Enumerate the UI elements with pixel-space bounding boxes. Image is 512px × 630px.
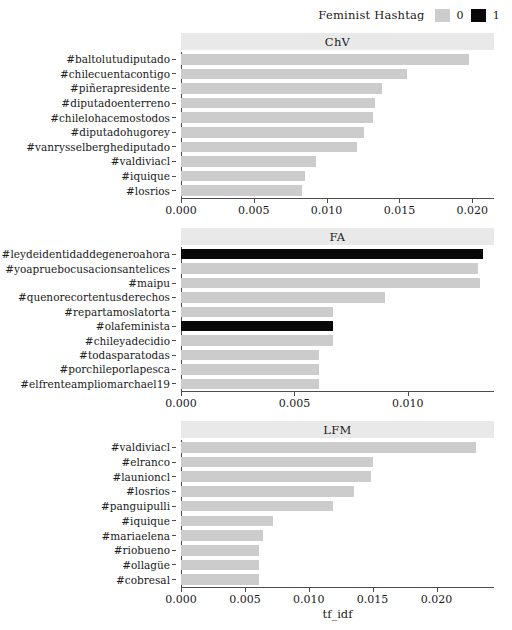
x-tick-mark <box>181 588 182 592</box>
x-tick-label: 0.005 <box>238 204 270 217</box>
y-tick: #porchileporlapesca <box>0 362 176 376</box>
x-tick-mark <box>373 588 374 592</box>
y-tick-mark <box>172 132 176 133</box>
y-tick: #olafeminista <box>0 319 176 333</box>
y-tick: #valdiviacl <box>0 154 176 169</box>
y-tick-label: #yoapruebocusacionsantelices <box>5 263 176 275</box>
bar <box>181 457 373 468</box>
bar-row <box>181 543 494 558</box>
panel-title: FA <box>330 230 346 244</box>
bar-row <box>181 558 494 573</box>
bar <box>181 545 259 556</box>
y-tick-mark <box>172 462 176 463</box>
y-axis-labels: #baltolutudiputado#chilecuentacontigo#pi… <box>0 52 176 198</box>
x-tick-label: 0.010 <box>392 397 424 410</box>
x-axis-line <box>181 198 494 199</box>
x-tick-mark <box>181 199 182 203</box>
bar <box>181 530 263 541</box>
y-tick-label: #launioncl <box>112 471 176 483</box>
y-tick: #riobueno <box>0 543 176 558</box>
bar <box>181 364 319 374</box>
y-tick-label: #olafeminista <box>96 320 176 332</box>
y-tick-label: #valdiviacl <box>111 155 176 167</box>
y-tick-label: #chilecuentacontigo <box>60 68 176 80</box>
x-tick-mark <box>181 392 182 396</box>
bar-row <box>181 514 494 529</box>
bar-row <box>181 110 494 125</box>
y-tick-label: #repartamoslatorta <box>64 306 176 318</box>
bar-rows <box>181 440 494 587</box>
y-axis-labels: #leydeidentidaddegeneroahora#yoapruebocu… <box>0 247 176 391</box>
bar-row <box>181 52 494 67</box>
y-tick-mark <box>172 550 176 551</box>
y-tick-label: #valdiviacl <box>111 441 176 453</box>
bar-row <box>181 261 494 275</box>
x-axis-line <box>181 391 494 392</box>
bar-row <box>181 455 494 470</box>
bar-row <box>181 290 494 304</box>
y-tick: #chilecuentacontigo <box>0 67 176 82</box>
bar-row <box>181 348 494 362</box>
bar-row <box>181 247 494 261</box>
bar-row <box>181 140 494 155</box>
plot-area <box>181 52 494 199</box>
x-tick-label: 0.010 <box>293 593 325 606</box>
bar <box>181 278 480 288</box>
y-tick-mark <box>172 383 176 384</box>
panel-chv: ChV #baltolutudiputado#chilecuentacontig… <box>0 33 512 225</box>
y-tick-mark <box>172 447 176 448</box>
y-tick: #leydeidentidaddegeneroahora <box>0 247 176 261</box>
x-tick-label: 0.005 <box>229 593 261 606</box>
bar-row <box>181 154 494 169</box>
y-tick: #losrios <box>0 484 176 499</box>
bar <box>181 516 273 527</box>
legend-title: Feminist Hashtag <box>318 8 424 22</box>
bar-row <box>181 319 494 333</box>
panel-title: ChV <box>325 35 350 49</box>
bar <box>181 263 478 273</box>
y-tick-label: #ollagüe <box>122 559 176 571</box>
bar <box>181 574 259 585</box>
y-tick-label: #baltolutudiputado <box>66 53 176 65</box>
x-tick-label: 0.020 <box>456 204 488 217</box>
y-tick: #chileyadecidio <box>0 333 176 347</box>
y-tick: #iquique <box>0 514 176 529</box>
bar <box>181 292 385 302</box>
bar <box>181 69 407 80</box>
y-tick-label: #porchileporlapesca <box>59 363 176 375</box>
y-tick-mark <box>172 297 176 298</box>
x-tick-mark <box>309 588 310 592</box>
tf-idf-faceted-bar-chart: Feminist Hashtag 0 1 ChV #baltolutudiput… <box>0 0 512 630</box>
panel-strip-chv: ChV <box>181 33 494 50</box>
y-tick-mark <box>172 268 176 269</box>
x-tick-mark <box>437 588 438 592</box>
panel-title: LFM <box>323 423 351 437</box>
x-tick-label: 0.010 <box>311 204 343 217</box>
bar <box>181 98 375 109</box>
bar-rows <box>181 52 494 198</box>
x-tick-label: 0.015 <box>384 204 416 217</box>
y-tick: #todasparatodas <box>0 348 176 362</box>
y-tick-mark <box>172 283 176 284</box>
y-tick-label: #iquique <box>121 515 176 527</box>
bar <box>181 442 476 453</box>
y-tick-mark <box>172 161 176 162</box>
x-tick-mark <box>245 588 246 592</box>
y-tick-label: #diputadohugorey <box>70 126 176 138</box>
panel-strip-fa: FA <box>181 228 494 245</box>
y-tick-label: #iquique <box>121 170 176 182</box>
y-tick: #elranco <box>0 455 176 470</box>
x-axis-label: tf_idf <box>181 607 494 621</box>
x-tick-label: 0.015 <box>357 593 389 606</box>
y-tick-label: #diputadoenterreno <box>61 97 176 109</box>
y-tick-mark <box>172 146 176 147</box>
panel-strip-lfm: LFM <box>181 421 494 438</box>
y-tick: #diputadoenterreno <box>0 96 176 111</box>
y-tick: #valdiviacl <box>0 440 176 455</box>
bar <box>181 249 483 259</box>
y-tick-mark <box>172 103 176 104</box>
bar-row <box>181 81 494 96</box>
y-tick: #piñerapresidente <box>0 81 176 96</box>
y-tick: #repartamoslatorta <box>0 305 176 319</box>
y-tick-mark <box>172 506 176 507</box>
